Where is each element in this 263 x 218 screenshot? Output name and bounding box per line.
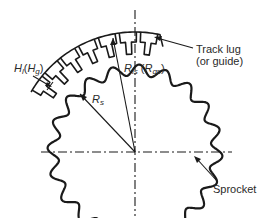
hl-symbol: H bbox=[14, 62, 22, 74]
rls-paren-close: ) bbox=[161, 62, 165, 74]
rgs-subscript: gs bbox=[152, 67, 160, 76]
radius-rs-line bbox=[80, 94, 135, 152]
hl-paren-close: ) bbox=[40, 62, 44, 74]
sprocket-diagram: Hl(Hg) Rs Rls (Rgs) Track lug (or guide)… bbox=[0, 0, 263, 218]
label-track-lug: Track lug (or guide) bbox=[196, 43, 243, 67]
label-rls: Rls (Rgs) bbox=[124, 62, 165, 78]
label-rs: Rs bbox=[92, 93, 104, 109]
label-sprocket: Sprocket bbox=[213, 183, 256, 195]
radius-rls-line bbox=[113, 38, 135, 152]
sprocket-leader-line bbox=[197, 159, 217, 181]
track-lug-label-line2: (or guide) bbox=[196, 55, 243, 67]
rs-subscript: s bbox=[100, 98, 104, 107]
label-hl: Hl(Hg) bbox=[14, 62, 43, 78]
rs-symbol: R bbox=[92, 93, 100, 105]
radius-rls-arrowhead bbox=[110, 38, 116, 45]
rls-symbol: R bbox=[124, 62, 132, 74]
track-lug-label-line1: Track lug bbox=[196, 43, 243, 55]
